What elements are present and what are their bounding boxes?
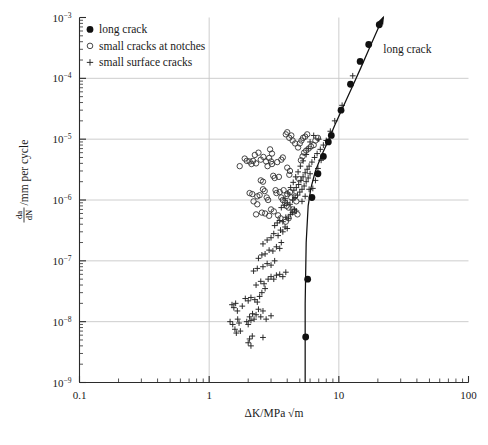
y-axis-title-denominator: dN bbox=[24, 209, 34, 220]
data-point-plus bbox=[268, 262, 274, 268]
data-point-filled-circle bbox=[347, 81, 354, 88]
data-point-plus bbox=[259, 252, 265, 258]
x-tick-label: 0.1 bbox=[73, 389, 87, 401]
y-axis-title-suffix: /mm per cycle bbox=[18, 140, 31, 206]
data-point-plus bbox=[268, 313, 274, 319]
legend: long cracksmall cracks at notchessmall s… bbox=[87, 23, 206, 68]
data-point-plus bbox=[272, 258, 278, 264]
annotation-long-crack: long crack bbox=[383, 43, 431, 56]
y-tick-label: 10−4 bbox=[52, 71, 71, 84]
legend-label: small surface cracks bbox=[99, 56, 193, 68]
data-point-plus bbox=[245, 322, 251, 328]
data-point-plus bbox=[249, 333, 255, 339]
data-point-plus bbox=[268, 274, 274, 280]
data-point-open-circle bbox=[275, 159, 280, 164]
data-point-plus bbox=[256, 255, 262, 261]
data-point-open-circle bbox=[253, 212, 258, 217]
legend-label: small cracks at notches bbox=[99, 40, 206, 52]
axis-titles: ΔK/MPa √m bbox=[245, 407, 304, 419]
x-tick-label: 1 bbox=[206, 389, 212, 401]
x-tick-label: 100 bbox=[460, 389, 477, 401]
data-point-plus bbox=[260, 335, 266, 341]
data-point-plus bbox=[295, 169, 301, 175]
data-point-open-circle bbox=[251, 199, 256, 204]
y-tick-label: 10−8 bbox=[52, 315, 71, 328]
x-axis-title: ΔK/MPa √m bbox=[245, 407, 304, 419]
legend-marker-open-circle bbox=[87, 43, 93, 49]
data-point-open-circle bbox=[237, 163, 242, 168]
data-point-plus bbox=[250, 311, 256, 317]
data-point-plus bbox=[278, 240, 284, 246]
data-point-plus bbox=[312, 155, 318, 161]
data-point-plus bbox=[262, 251, 268, 257]
long-crack-curve bbox=[305, 16, 384, 383]
data-point-filled-circle bbox=[309, 194, 316, 201]
data-point-plus bbox=[251, 268, 257, 274]
data-point-plus bbox=[244, 319, 250, 325]
data-point-filled-circle bbox=[320, 153, 327, 160]
data-point-plus bbox=[260, 264, 266, 270]
data-point-open-circle bbox=[294, 199, 299, 204]
data-point-plus bbox=[260, 241, 266, 247]
data-point-filled-circle bbox=[376, 21, 383, 28]
legend-marker-filled-circle bbox=[87, 26, 94, 33]
data-point-filled-circle bbox=[357, 58, 364, 65]
data-point-plus bbox=[227, 319, 233, 325]
data-point-plus bbox=[350, 73, 356, 79]
data-point-filled-circle bbox=[328, 132, 335, 139]
y-tick-label: 10−3 bbox=[52, 11, 71, 24]
data-point-plus bbox=[314, 151, 320, 157]
data-point-plus bbox=[283, 269, 289, 275]
data-point-plus bbox=[235, 316, 241, 322]
data-point-plus bbox=[236, 320, 242, 326]
data-point-filled-circle bbox=[325, 139, 332, 146]
y-tick-label: 10−6 bbox=[52, 193, 71, 206]
x-tick-labels: 0.1110100 bbox=[73, 389, 478, 401]
data-point-plus bbox=[274, 272, 280, 278]
data-point-open-circle bbox=[255, 202, 260, 207]
data-point-filled-circle bbox=[365, 41, 372, 48]
data-point-plus bbox=[309, 159, 315, 165]
crack-growth-rate-chart: 10−310−410−510−610−710−810−90.1110100ΔK/… bbox=[0, 0, 488, 445]
y-tick-label: 10−5 bbox=[52, 132, 71, 145]
data-point-plus bbox=[272, 223, 278, 229]
data-point-open-circle bbox=[295, 212, 300, 217]
data-point-filled-circle bbox=[304, 276, 311, 283]
data-point-plus bbox=[264, 261, 270, 267]
gridlines bbox=[80, 18, 469, 383]
data-point-filled-circle bbox=[338, 107, 345, 114]
data-point-plus bbox=[263, 316, 269, 322]
data-point-plus bbox=[265, 276, 271, 282]
data-point-plus bbox=[253, 282, 259, 288]
data-point-plus bbox=[302, 193, 308, 199]
data-point-plus bbox=[248, 317, 254, 323]
data-point-plus bbox=[245, 340, 251, 346]
data-point-plus bbox=[262, 286, 268, 292]
annotation-label: long crack bbox=[383, 43, 431, 56]
data-point-plus bbox=[266, 247, 272, 253]
data-point-plus bbox=[297, 163, 303, 169]
data-point-plus bbox=[234, 308, 240, 314]
data-point-plus bbox=[248, 343, 254, 349]
data-point-plus bbox=[317, 146, 323, 152]
data-point-plus bbox=[254, 266, 260, 272]
data-point-filled-circle bbox=[302, 334, 309, 341]
data-point-plus bbox=[270, 248, 276, 254]
data-point-plus bbox=[290, 179, 296, 185]
y-axis-title-numerator: da bbox=[14, 211, 24, 219]
legend-label: long crack bbox=[99, 23, 147, 36]
data-point-plus bbox=[247, 336, 253, 342]
data-point-filled-circle bbox=[315, 170, 322, 177]
y-tick-labels: 10−310−410−510−610−710−810−9 bbox=[52, 11, 71, 389]
y-tick-label: 10−9 bbox=[52, 376, 71, 389]
data-point-open-circle bbox=[287, 172, 292, 177]
data-point-plus bbox=[271, 276, 277, 282]
legend-marker-plus bbox=[87, 59, 93, 65]
data-point-plus bbox=[239, 303, 245, 309]
figure-container: 10−310−410−510−610−710−810−90.1110100ΔK/… bbox=[0, 0, 488, 445]
data-point-plus bbox=[299, 198, 305, 204]
y-tick-label: 10−7 bbox=[52, 254, 71, 267]
y-axis-title: dadN/mm per cycle bbox=[14, 140, 34, 223]
x-tick-label: 10 bbox=[333, 389, 345, 401]
